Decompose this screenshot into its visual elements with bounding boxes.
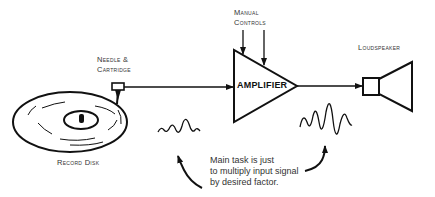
loudspeaker-label-text: Loudspeaker: [358, 43, 400, 52]
record-disk-label: Record Disk: [57, 158, 99, 168]
spindle: [79, 114, 84, 123]
input-waveform: [158, 119, 200, 132]
caption-text: Main task is just to multiply input sign…: [210, 155, 299, 188]
needle-cartridge-label: Needle & Cartridge: [97, 55, 131, 75]
manual-controls-label-line2: Controls: [234, 18, 266, 27]
record-disk-label-text: Record Disk: [57, 158, 99, 167]
output-waveform: [300, 104, 352, 134]
caption-line1: Main task is just: [210, 155, 274, 165]
caption-line3: by desired factor.: [210, 177, 279, 187]
record-disk: [13, 92, 127, 152]
loudspeaker-label: Loudspeaker: [358, 43, 400, 53]
needle-label-line2: Cartridge: [97, 65, 131, 74]
caption-line2: to multiply input signal: [210, 166, 299, 176]
manual-controls-label: Manual Controls: [234, 8, 266, 28]
caption-arrow-input: [178, 156, 202, 188]
needle-cartridge: [112, 83, 124, 104]
loudspeaker: [363, 62, 412, 111]
caption-arrow-output: [305, 146, 325, 171]
needle-label-line1: Needle &: [97, 55, 128, 64]
manual-controls-label-line1: Manual: [234, 8, 259, 17]
amplifier-label: AMPLIFIER: [237, 80, 287, 90]
